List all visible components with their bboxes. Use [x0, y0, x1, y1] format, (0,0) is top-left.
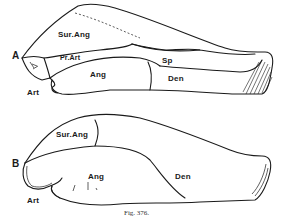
ang-label-a: Ang	[90, 70, 106, 79]
figure-caption: Fig. 376.	[124, 209, 149, 217]
sur-ang-label-b: Sur.Ang	[56, 130, 88, 139]
figure-drawing	[0, 0, 285, 220]
sp-label-a: Sp	[162, 56, 173, 65]
panel-b-drawing	[23, 114, 271, 205]
den-label-b: Den	[175, 172, 191, 181]
panel-a-label: A	[12, 50, 19, 61]
jaw-bone-figure: A Sur.Ang Pr.Art Ang Sp Den Art B Sur.An…	[0, 0, 285, 220]
pr-art-label-a: Pr.Art	[60, 54, 80, 61]
panel-a-drawing	[22, 4, 273, 94]
art-label-b: Art	[27, 196, 39, 205]
sur-ang-label-a: Sur.Ang	[58, 30, 90, 39]
panel-b-label: B	[12, 158, 19, 169]
ang-label-b: Ang	[88, 172, 104, 181]
art-label-a: Art	[27, 88, 39, 97]
den-label-a: Den	[168, 74, 184, 83]
